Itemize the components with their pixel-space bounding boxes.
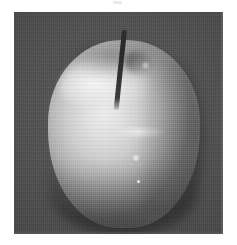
plate-edge-right <box>221 12 223 234</box>
specular-highlight <box>137 180 140 183</box>
plate-edge-bottom <box>14 232 223 234</box>
scan-artifact-speck <box>113 1 122 4</box>
photo-alt-text: Grayscale photograph of a single apple w… <box>0 0 1 1</box>
page-canvas: Grayscale photograph of a single apple w… <box>0 0 237 245</box>
photo-plate <box>14 12 223 234</box>
